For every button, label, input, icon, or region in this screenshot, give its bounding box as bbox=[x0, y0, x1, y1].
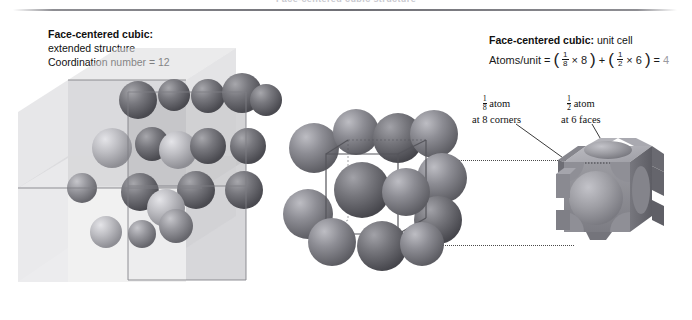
running-head: Face-centered cubic structure bbox=[0, 0, 692, 4]
times-symbol-1: × bbox=[572, 53, 578, 68]
fraction-one-half-callout: 1 2 bbox=[567, 95, 571, 112]
fraction-one-eighth-callout: 1 8 bbox=[483, 95, 487, 112]
extended-structure-svg bbox=[16, 66, 286, 302]
fraction-denominator: 2 bbox=[567, 103, 571, 112]
paren-close-2: ) bbox=[645, 49, 651, 71]
callout-corner-line2: at 8 corners bbox=[472, 113, 521, 127]
face-count: 6 bbox=[636, 53, 642, 68]
paren-close-1: ) bbox=[590, 49, 596, 71]
callout-corner-atom: 1 8 atom at 8 corners bbox=[472, 96, 521, 127]
callout-face-word: atom bbox=[574, 98, 595, 109]
caption-right-title: Face-centered cubic: bbox=[489, 34, 594, 46]
fraction-denominator: 8 bbox=[483, 103, 487, 112]
fraction-denominator: 8 bbox=[562, 59, 568, 68]
paren-open-1: ( bbox=[553, 49, 559, 71]
fraction-numerator: 1 bbox=[562, 51, 568, 59]
caption-unit-cell: Face-centered cubic: unit cell Atoms/uni… bbox=[489, 28, 669, 72]
figure-page: Face-centered cubic structure Face-cente… bbox=[0, 0, 692, 320]
unit-cell-illustration bbox=[286, 96, 458, 264]
times-symbol-2: × bbox=[626, 53, 632, 68]
caption-right-title-suffix: unit cell bbox=[594, 34, 633, 46]
fractional-atom-cube-svg bbox=[556, 136, 668, 242]
dotted-connector-top bbox=[443, 160, 572, 161]
extended-structure-illustration bbox=[16, 66, 286, 302]
unit-cell-svg bbox=[286, 96, 458, 264]
callout-face-line2: at 6 faces bbox=[561, 113, 601, 127]
fraction-numerator: 1 bbox=[567, 95, 571, 103]
caption-right-title-row: Face-centered cubic: unit cell bbox=[489, 28, 669, 49]
callout-corner-line1: 1 8 atom bbox=[472, 96, 521, 113]
callout-face-line1: 1 2 atom bbox=[561, 96, 601, 113]
equation-equals-2: = bbox=[654, 53, 660, 68]
top-rule-divider bbox=[13, 9, 677, 11]
fraction-one-eighth: 1 8 bbox=[562, 51, 568, 68]
plus-symbol: + bbox=[599, 53, 605, 68]
fraction-numerator: 1 bbox=[483, 95, 487, 103]
cube-front-face bbox=[564, 162, 630, 232]
paren-open-2: ( bbox=[608, 49, 614, 71]
dotted-connector-bottom bbox=[441, 245, 574, 246]
equation-label: Atoms/unit bbox=[489, 53, 541, 68]
fraction-numerator: 1 bbox=[617, 51, 623, 59]
caption-left-title: Face-centered cubic: bbox=[48, 28, 170, 42]
equation-equals-1: = bbox=[544, 53, 550, 68]
callout-corner-word: atom bbox=[489, 98, 510, 109]
fractional-atom-cube-illustration bbox=[556, 136, 668, 242]
fraction-one-half: 1 2 bbox=[617, 51, 623, 68]
corner-count: 8 bbox=[581, 53, 587, 68]
fraction-denominator: 2 bbox=[617, 59, 623, 68]
callout-face-atom: 1 2 atom at 6 faces bbox=[561, 96, 601, 127]
equation-result: 4 bbox=[663, 53, 669, 68]
atoms-per-unit-equation: Atoms/unit = ( 1 8 × 8 ) + ( 1 2 × 6 ) =… bbox=[489, 49, 669, 71]
